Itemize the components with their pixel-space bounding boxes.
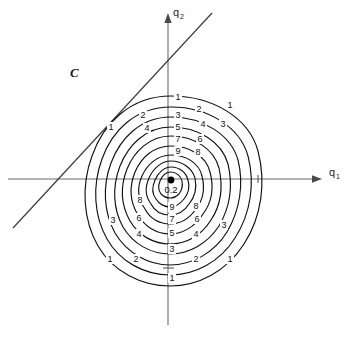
contour-label: 2 <box>193 254 198 264</box>
contour-label: 8 <box>193 201 198 211</box>
plot-background <box>0 0 350 341</box>
contour-label: 4 <box>200 119 205 129</box>
contour-label: 1 <box>227 100 232 110</box>
q1-axis-subscript: 1 <box>336 173 340 180</box>
contour-label: 9 <box>175 146 180 156</box>
contour-label: 1 <box>227 254 232 264</box>
contour-label: 3 <box>221 220 226 230</box>
contour-label: 3 <box>220 119 225 129</box>
contour-label: 2 <box>133 254 138 264</box>
q2-axis-subscript: 2 <box>180 13 184 20</box>
contour-label: 3 <box>175 110 180 120</box>
contour-label: 6 <box>197 134 202 144</box>
contour-label: 3 <box>110 215 115 225</box>
contour-label: 7 <box>169 214 174 224</box>
contour-label: 3 <box>169 244 174 254</box>
center-value-label: 0.2 <box>164 184 177 195</box>
contour-label: 2 <box>196 104 201 114</box>
contour-label: 6 <box>136 213 141 223</box>
region-label-c: C <box>70 65 79 80</box>
contour-label: 8 <box>195 147 200 157</box>
contour-label: 4 <box>136 229 141 239</box>
contour-label: 5 <box>169 228 174 238</box>
contour-label: 1 <box>107 254 112 264</box>
contour-label: 4 <box>193 229 198 239</box>
contour-label: 9 <box>169 202 174 212</box>
contour-label: 1 <box>169 273 174 283</box>
q2-axis-label: q <box>173 6 179 18</box>
contour-label: 7 <box>175 134 180 144</box>
contour-plot-figure: q 1 q 2 C 0.2 12123414537698898676345433… <box>0 0 350 341</box>
contour-label: 4 <box>144 123 149 133</box>
contour-label: 5 <box>175 122 180 132</box>
contour-label: 6 <box>194 214 199 224</box>
contour-label: 8 <box>137 195 142 205</box>
contour-label: 2 <box>140 110 145 120</box>
center-minimum-dot <box>168 177 175 184</box>
q1-axis-label: q <box>329 166 335 178</box>
contour-label: 1 <box>108 122 113 132</box>
contour-label: 1 <box>175 92 180 102</box>
